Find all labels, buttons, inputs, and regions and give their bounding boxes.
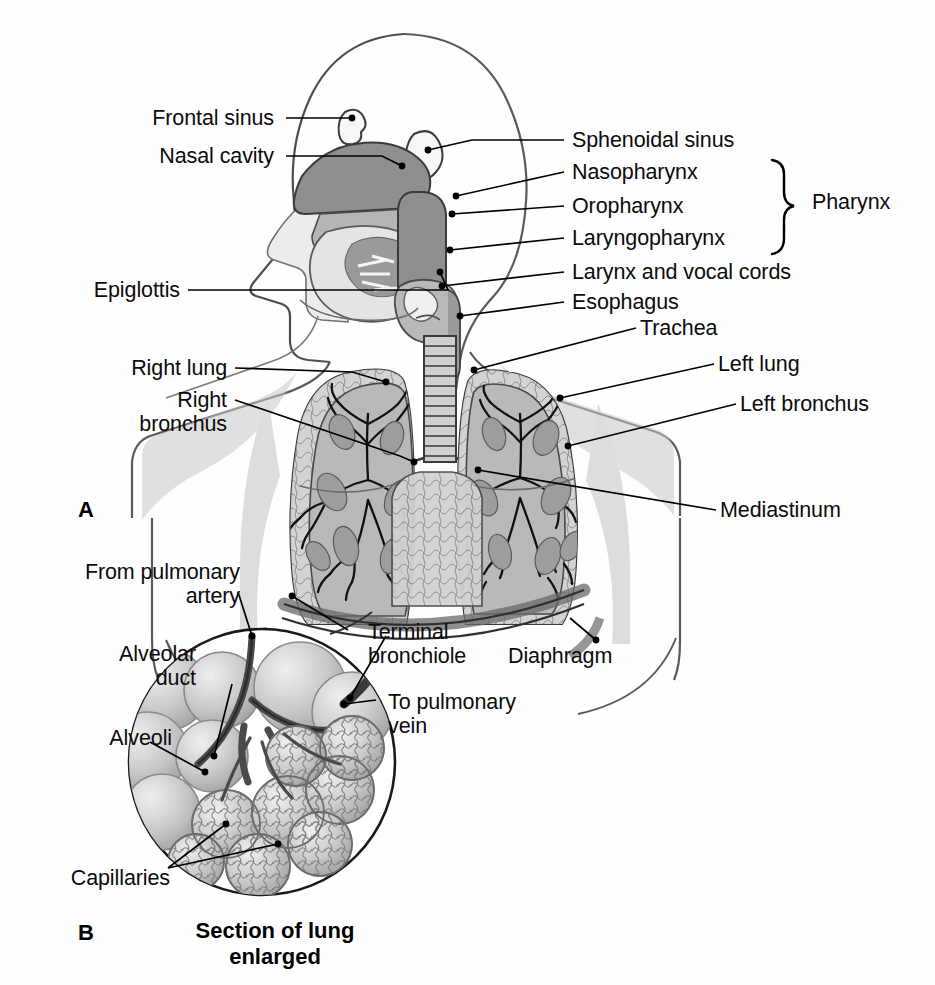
label-from-pulmonary-artery-line2: artery	[186, 584, 240, 609]
label-left-lung: Left lung	[718, 352, 800, 377]
panel-letter-a: A	[78, 497, 94, 523]
label-to-pulmonary-vein-line1: To pulmonary	[388, 690, 516, 715]
panel-b-caption-line1: Section of lung	[165, 918, 385, 944]
label-nasal-cavity: Nasal cavity	[159, 144, 274, 169]
label-epiglottis: Epiglottis	[94, 278, 180, 303]
label-diaphragm: Diaphragm	[508, 644, 612, 669]
respiratory-diagram-figure: Frontal sinus Nasal cavity Epiglottis Ri…	[0, 0, 935, 985]
label-capillaries: Capillaries	[71, 866, 170, 891]
label-from-pulmonary-artery-line1: From pulmonary	[85, 560, 240, 585]
label-laryngopharynx: Laryngopharynx	[572, 226, 725, 251]
label-larynx-and-vocal-cords: Larynx and vocal cords	[572, 260, 791, 285]
label-alveolar-duct-line2: duct	[156, 666, 196, 691]
label-terminal-bronchiole-line1: Terminal	[368, 620, 448, 645]
pharynx-brace	[772, 160, 794, 254]
panel-letter-b: B	[78, 920, 94, 946]
panel-b-caption-line2: enlarged	[165, 944, 385, 970]
label-oropharynx: Oropharynx	[572, 194, 683, 219]
label-right-bronchus-line2: bronchus	[139, 412, 227, 437]
anatomy-illustration	[0, 0, 935, 985]
label-mediastinum: Mediastinum	[720, 498, 841, 523]
label-nasopharynx: Nasopharynx	[572, 160, 698, 185]
label-to-pulmonary-vein-line2: vein	[388, 714, 427, 739]
label-sphenoidal-sinus: Sphenoidal sinus	[572, 128, 734, 153]
label-esophagus: Esophagus	[572, 290, 679, 315]
label-right-bronchus-line1: Right	[177, 388, 227, 413]
label-trachea: Trachea	[640, 316, 717, 341]
label-left-bronchus: Left bronchus	[740, 392, 869, 417]
label-frontal-sinus: Frontal sinus	[152, 106, 274, 131]
label-alveolar-duct-line1: Alveolar	[119, 642, 196, 667]
mediastinum-shape	[392, 472, 482, 606]
label-alveoli: Alveoli	[109, 726, 172, 751]
label-right-lung: Right lung	[131, 356, 227, 381]
label-pharynx: Pharynx	[812, 190, 890, 215]
label-terminal-bronchiole-line2: bronchiole	[368, 644, 466, 669]
